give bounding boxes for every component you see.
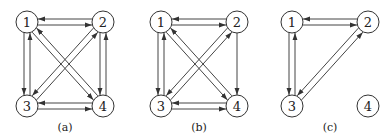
node-label: 4 [364, 99, 372, 114]
edge-2-to-3 [32, 28, 93, 96]
graph-caption: (a) [57, 121, 72, 134]
node-4: 4 [357, 95, 379, 117]
node-label: 3 [288, 99, 296, 114]
node-3: 3 [16, 95, 38, 117]
node-label: 4 [99, 99, 107, 114]
node-label: 3 [157, 99, 165, 114]
edge-2-to-3 [297, 28, 358, 96]
node-3: 3 [150, 95, 172, 117]
node-label: 3 [23, 99, 31, 114]
node-label: 2 [99, 15, 107, 30]
node-3: 3 [281, 95, 303, 117]
node-2: 2 [92, 11, 114, 33]
node-label: 1 [288, 15, 296, 30]
node-label: 4 [233, 99, 241, 114]
node-label: 1 [157, 15, 165, 30]
node-1: 1 [16, 11, 38, 33]
graph-caption: (c) [323, 121, 338, 134]
graph-b: 1234(b) [150, 11, 248, 134]
node-2: 2 [226, 11, 248, 33]
edge-4-to-1 [37, 28, 98, 96]
node-label: 2 [233, 15, 241, 30]
edge-4-to-1 [171, 28, 232, 96]
graph-a: 1234(a) [16, 11, 114, 134]
node-4: 4 [226, 95, 248, 117]
edge-1-to-4 [32, 32, 93, 100]
edge-3-to-2 [171, 32, 232, 100]
edge-1-to-4 [166, 32, 227, 100]
edge-2-to-3 [166, 28, 227, 96]
graph-caption: (b) [191, 121, 207, 134]
node-label: 2 [364, 15, 372, 30]
node-label: 1 [23, 15, 31, 30]
node-4: 4 [92, 95, 114, 117]
graph-c: 1234(c) [281, 11, 379, 134]
node-1: 1 [281, 11, 303, 33]
edge-3-to-2 [302, 32, 363, 100]
directed-graphs-figure: 1234(a) 1234(b) 1234(c) [0, 0, 392, 140]
node-1: 1 [150, 11, 172, 33]
node-2: 2 [357, 11, 379, 33]
edge-3-to-2 [37, 32, 98, 100]
